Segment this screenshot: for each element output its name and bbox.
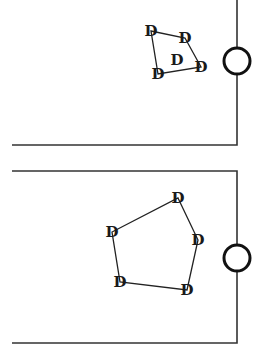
- node-label: D: [113, 273, 126, 291]
- node-label: D: [191, 231, 204, 249]
- wall-bottom: [12, 171, 237, 343]
- port-circle-bottom: [224, 245, 250, 271]
- node-label: D: [178, 29, 191, 47]
- port-circle-top: [224, 48, 250, 74]
- diagram-canvas: DDDD D DDDDD: [0, 0, 259, 360]
- panel-top: DDDD D: [12, 0, 250, 145]
- node-label: D: [151, 65, 164, 83]
- node-label: D: [194, 58, 207, 76]
- node-label: D: [105, 223, 118, 241]
- node-label: D: [180, 281, 193, 299]
- center-node-label: D: [170, 51, 183, 69]
- node-label: D: [171, 189, 184, 207]
- panel-bottom: DDDDD: [12, 171, 250, 343]
- nodes-bottom: DDDDD: [105, 189, 204, 299]
- node-label: D: [144, 22, 157, 40]
